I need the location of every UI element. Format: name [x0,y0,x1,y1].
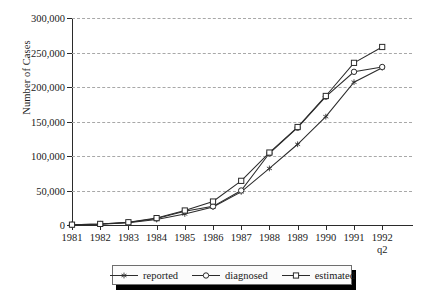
square-marker [281,271,311,280]
x-tick-label: 1986 [203,232,224,244]
square-marker [267,150,272,155]
square-marker [182,208,187,213]
x-tick-label: 1984 [146,232,167,244]
x-tick-label: 1982 [90,232,111,244]
legend-label: reported [143,270,178,281]
legend-label: estimated [315,270,355,281]
star-marker [109,271,139,280]
y-tick-label: 0 [60,220,65,231]
circle-marker [351,69,356,74]
square-marker [98,221,103,226]
circle-marker [239,188,244,193]
series-reported [69,65,384,228]
legend-label: diagnosed [225,270,268,281]
y-tick-label: 250,000 [31,47,65,58]
y-tick-label: 50,000 [36,185,65,196]
square-marker [154,216,159,221]
legend-item-estimated: estimated [281,270,355,281]
circle-marker-glyph [203,272,208,277]
square-marker [126,220,131,225]
square-marker [351,60,356,65]
y-tick-label: 300,000 [31,13,65,24]
y-tick-label: 150,000 [31,116,65,127]
series-line [72,67,382,225]
x-tick-label: 1981 [62,232,83,244]
chart-legend: reporteddiagnosedestimated [112,265,352,285]
square-marker-glyph [293,272,298,277]
x-tick-label: 1985 [174,232,195,244]
square-marker [295,124,300,129]
chart-figure: Number of Cases 050,000100,000150,000200… [0,0,429,300]
y-tick-label: 200,000 [31,82,65,93]
circle-marker [380,64,385,69]
series-group [72,18,413,226]
legend-item-diagnosed: diagnosed [191,270,268,281]
legend-item-reported: reported [109,270,178,281]
x-tick-label: 1988 [259,232,280,244]
square-marker [380,44,385,49]
square-marker [69,222,74,227]
x-tick-label: 1987 [231,232,252,244]
x-tick-label: 1991 [344,232,365,244]
circle-marker [191,271,221,280]
x-tick-label: 1992q2 [372,232,393,255]
square-marker [323,93,328,98]
x-tick-label: 1983 [118,232,139,244]
y-tick-label: 100,000 [31,151,65,162]
x-tick-label: 1989 [287,232,308,244]
square-marker [239,178,244,183]
x-tick-label: 1990 [315,232,336,244]
square-marker [210,199,215,204]
y-axis-title: Number of Cases [21,8,32,148]
series-diagnosed [69,64,385,227]
series-line [72,68,382,225]
